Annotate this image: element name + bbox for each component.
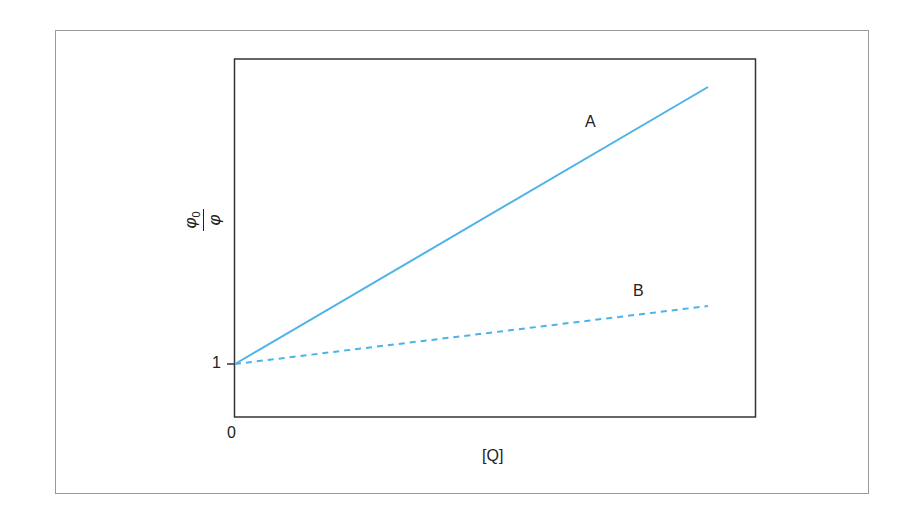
ylabel-subscript: 0 [190, 211, 202, 217]
x-axis-label: [Q] [482, 447, 503, 465]
series-a-line [235, 87, 708, 364]
plot-area [0, 0, 899, 530]
y-tick-label-1: 1 [212, 354, 221, 372]
plot-box [235, 59, 756, 417]
origin-label: 0 [227, 424, 236, 442]
series-b-line [235, 306, 708, 364]
ylabel-numerator: φ [181, 218, 200, 229]
series-b-label: B [633, 282, 644, 300]
ylabel-denominator: φ [204, 214, 225, 225]
series-a-label: A [585, 113, 596, 131]
y-axis-label: φ0 φ [173, 185, 233, 255]
